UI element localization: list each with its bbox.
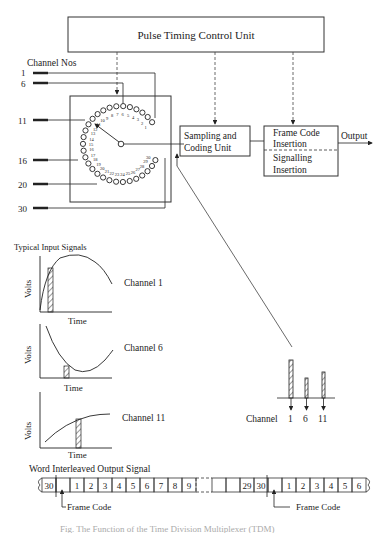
contact-26 xyxy=(134,176,139,181)
contact-9 xyxy=(101,108,106,113)
contact-15 xyxy=(80,141,85,146)
contact-6 xyxy=(121,104,126,109)
input-signals-title: Typical Input Signals xyxy=(14,242,87,252)
signal-graph-channel-6 xyxy=(40,324,113,378)
contact-label: 8 xyxy=(111,113,114,118)
y-axis-label-6: Volts xyxy=(23,345,33,364)
contact-5 xyxy=(127,105,132,110)
channel-11-label: Channel 11 xyxy=(122,413,165,423)
x-axis-label-1: Time xyxy=(68,316,87,326)
output-cell-label: 7 xyxy=(159,481,164,491)
signal-graph-channel-1 xyxy=(40,255,112,312)
sample-tick-1: 1 xyxy=(288,414,293,424)
contact-label: 10 xyxy=(100,118,105,123)
sampling-coding-unit: Sampling and Coding Unit xyxy=(180,126,250,156)
contact-label: 9 xyxy=(106,116,109,121)
sample-pointer-line xyxy=(177,166,292,347)
x-axis-label-11: Time xyxy=(68,450,87,460)
signal-graph-channel-11 xyxy=(40,392,112,448)
contact-label: 6 xyxy=(122,112,125,117)
contact-18 xyxy=(86,161,91,166)
contact-12 xyxy=(86,122,91,127)
contact-label: 30 xyxy=(146,155,151,160)
contact-2 xyxy=(145,114,150,119)
contact-10 xyxy=(95,112,100,117)
channel-6-label: Channel 6 xyxy=(124,343,163,353)
contact-27 xyxy=(140,173,145,178)
output-cell-label: 6 xyxy=(145,481,150,491)
frame-insertion-label: Insertion xyxy=(273,139,307,149)
contact-30 xyxy=(153,158,158,163)
output-cell-label: 4 xyxy=(329,481,334,491)
output-cell xyxy=(226,478,240,492)
output-cell-label: 2 xyxy=(301,481,306,491)
figure-caption: Fig. The Function of the Time Division M… xyxy=(60,524,275,533)
channel-nos-label: Channel Nos xyxy=(27,58,77,68)
frame-code-label-2: Frame Code xyxy=(296,502,340,512)
contact-17 xyxy=(83,155,88,160)
sampling-label: Sampling and xyxy=(184,131,237,141)
contact-label: 5 xyxy=(127,113,130,118)
x-axis-label-6: Time xyxy=(64,383,83,393)
output-cell-label: 3 xyxy=(103,481,108,491)
output-cell-label: 1 xyxy=(75,481,80,491)
contact-label: 7 xyxy=(116,112,119,117)
channel-label-16: 16 xyxy=(18,156,28,166)
output-cell-label: 6 xyxy=(357,481,362,491)
samples-channel-label: Channel xyxy=(246,414,278,424)
contact-29 xyxy=(149,163,154,168)
frame-code-label-1: Frame Code xyxy=(67,502,111,512)
frame-code-label: Frame Code xyxy=(273,128,320,138)
contact-1 xyxy=(150,120,155,125)
output-cell-label: 30 xyxy=(45,481,55,491)
contact-8 xyxy=(107,105,112,110)
output-cell-label: 5 xyxy=(343,481,348,491)
contact-label: 21 xyxy=(105,169,110,174)
contact-label: 1 xyxy=(144,125,146,130)
channel-label-6: 6 xyxy=(21,79,26,89)
contact-21 xyxy=(101,175,106,180)
contact-13 xyxy=(83,128,88,133)
output-cell-label: 2 xyxy=(89,481,94,491)
output-label: Output xyxy=(341,131,368,141)
pulse-timing-label: Pulse Timing Control Unit xyxy=(137,29,254,41)
output-signal-title: Word Interleaved Output Signal xyxy=(29,464,151,474)
contact-20 xyxy=(95,171,100,176)
rotor-hub xyxy=(118,141,124,147)
channel-label-11: 11 xyxy=(18,116,27,126)
output-cell-label: 29 xyxy=(243,481,253,491)
contact-label: 3 xyxy=(137,117,140,122)
sample-tick-11: 11 xyxy=(318,414,327,424)
output-cell-label: 30 xyxy=(257,481,267,491)
contact-label: 15 xyxy=(89,142,94,147)
contact-label: 22 xyxy=(110,171,115,176)
contact-14 xyxy=(81,135,86,140)
tdm-diagram: Pulse Timing Control Unit Channel Nos 1 … xyxy=(0,0,391,533)
frame-code-signalling-unit: Frame Code Insertion Signalling Insertio… xyxy=(264,126,338,176)
output-cell-label: 5 xyxy=(131,481,136,491)
contact-7 xyxy=(114,104,119,109)
contact-19 xyxy=(90,166,95,171)
sample-tick-6: 6 xyxy=(303,414,308,424)
contact-4 xyxy=(134,107,139,112)
commutator: 1234567891011121314151617181920212223242… xyxy=(70,96,184,202)
contact-label: 29 xyxy=(143,159,148,164)
contact-23 xyxy=(114,179,119,184)
output-cell-label: 8 xyxy=(173,481,178,491)
rotor-arm xyxy=(95,124,119,142)
contact-11 xyxy=(90,116,95,121)
pulse-timing-control-unit: Pulse Timing Control Unit xyxy=(68,17,324,52)
contact-label: 14 xyxy=(89,137,94,142)
channel-inputs xyxy=(33,73,165,208)
output-cell-label: 9 xyxy=(187,481,192,491)
contact-16 xyxy=(81,148,86,153)
signalling-label: Signalling xyxy=(273,153,312,163)
contact-24 xyxy=(120,179,125,184)
output-cell-label: 4 xyxy=(117,481,122,491)
y-axis-label-1: Volts xyxy=(23,279,33,298)
output-signal-frame: 301234567892930123456 xyxy=(38,478,369,492)
contact-3 xyxy=(140,110,145,115)
coding-label: Coding Unit xyxy=(184,143,232,153)
channel-label-1: 1 xyxy=(21,68,26,78)
contact-25 xyxy=(127,178,132,183)
